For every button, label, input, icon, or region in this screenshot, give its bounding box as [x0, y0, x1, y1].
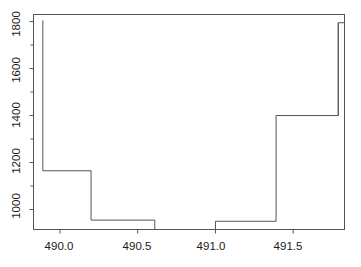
y-tick-label-1800: 1800	[10, 6, 22, 42]
y-tick-label-1200: 1200	[10, 143, 22, 179]
step-line	[43, 20, 345, 229]
step-plot-canvas	[0, 0, 361, 267]
y-tick-label-1600: 1600	[10, 52, 22, 88]
plot-frame	[34, 15, 345, 230]
x-tick-label-491-0: 491.0	[186, 240, 236, 252]
x-tick-label-490-5: 490.5	[112, 240, 162, 252]
x-tick-label-491-5: 491.5	[263, 240, 313, 252]
y-tick-label-1400: 1400	[10, 97, 22, 133]
y-axis-ticks	[30, 22, 34, 210]
x-tick-label-490-0: 490.0	[34, 240, 84, 252]
data-series-group	[43, 20, 345, 229]
y-tick-label-1000: 1000	[10, 188, 22, 224]
x-axis-ticks	[60, 230, 293, 234]
chart-figure: 1000 1200 1400 1600 1800 490.0 490.5 491…	[0, 0, 361, 267]
plot-border	[34, 15, 345, 230]
